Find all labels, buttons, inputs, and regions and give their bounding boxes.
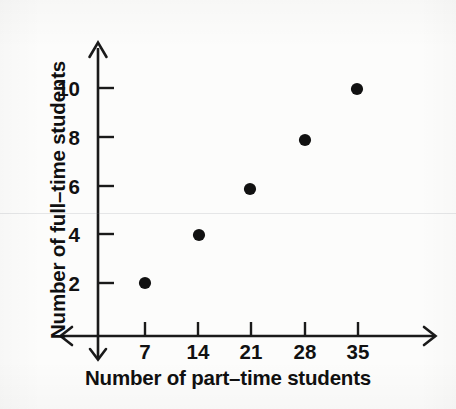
data-point	[351, 83, 363, 95]
scatter-plot-figure: 2 4 6 8 10 7 14 21 28 35 Number of part–…	[0, 0, 456, 409]
data-point	[299, 134, 311, 146]
y-axis-title: Number of full–time students	[46, 30, 70, 370]
x-tick-label-7: 7	[122, 340, 168, 364]
y-axis-ticks	[98, 88, 114, 283]
x-tick-label-28: 28	[282, 340, 328, 364]
data-point	[193, 229, 205, 241]
x-axis-ticks	[145, 322, 358, 336]
x-tick-label-21: 21	[228, 340, 274, 364]
data-point	[244, 183, 256, 195]
data-point	[139, 277, 151, 289]
data-point-group	[139, 83, 363, 289]
x-tick-label-35: 35	[335, 340, 381, 364]
x-tick-label-14: 14	[175, 340, 221, 364]
